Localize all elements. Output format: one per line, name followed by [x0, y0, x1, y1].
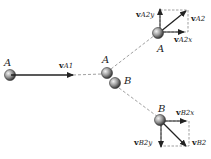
- label-ball-a-initial: A: [3, 57, 11, 68]
- ball-a-collision: [102, 68, 113, 79]
- ball-b-final: [155, 115, 166, 126]
- label-ball-a-collision: A: [101, 54, 109, 65]
- label-vB2: vB2: [191, 137, 207, 147]
- label-vB2x: vB2x: [175, 107, 194, 117]
- label-vA1: vA1: [58, 60, 73, 70]
- label-vA2x: vA2x: [173, 34, 192, 44]
- label-ball-b-final: B: [157, 103, 165, 114]
- collision-diagram: A vA1 A B A vA2y vA2 vA2x B vB2x vB2y vB…: [0, 0, 211, 159]
- trajectory-a-incoming: [73, 74, 102, 75]
- vector-vA2-arrow: [160, 11, 186, 32]
- label-vB2y: vB2y: [133, 137, 153, 147]
- label-vA2y: vA2y: [135, 9, 155, 19]
- trajectory-b-outgoing: [119, 88, 158, 117]
- trajectory-a-outgoing: [111, 35, 155, 69]
- vector-vB2-arrow: [161, 121, 186, 146]
- label-ball-a-final: A: [156, 43, 164, 54]
- ball-b-collision: [110, 78, 121, 89]
- label-ball-b-collision: B: [123, 75, 131, 86]
- ball-a-final: [153, 28, 164, 39]
- label-vA2: vA2: [190, 13, 206, 23]
